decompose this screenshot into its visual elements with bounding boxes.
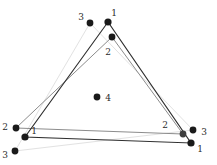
triangle-overlay-svg xyxy=(0,0,217,165)
triangle-3 xyxy=(15,23,193,151)
point-t1-apex xyxy=(104,18,111,25)
point-t3-right xyxy=(190,127,197,134)
point-t2-left xyxy=(13,125,20,132)
triangles-layer xyxy=(15,22,193,151)
figure-canvas: 1324213231 xyxy=(0,0,217,165)
point-t1-apex-label: 1 xyxy=(111,9,117,18)
point-t3-apex xyxy=(87,20,94,27)
points-layer xyxy=(12,18,197,154)
point-t1-right-label: 1 xyxy=(197,145,203,154)
triangle-2 xyxy=(16,37,183,134)
point-t3-right-label: 3 xyxy=(201,128,207,137)
point-t3-apex-label: 3 xyxy=(78,13,84,22)
point-t2-right xyxy=(180,131,187,138)
point-t1-right xyxy=(187,139,194,146)
point-center-4 xyxy=(94,94,101,101)
point-t2-right-label: 2 xyxy=(162,121,168,130)
point-center-4-label: 4 xyxy=(105,94,111,103)
point-t3-left-label: 3 xyxy=(2,151,8,160)
point-t2-apex xyxy=(109,34,116,41)
point-t2-left-label: 2 xyxy=(2,123,8,132)
point-t3-left xyxy=(12,148,19,155)
point-t2-apex-label: 2 xyxy=(105,48,111,57)
point-t1-left-label: 1 xyxy=(31,127,37,136)
point-t1-left xyxy=(21,133,28,140)
